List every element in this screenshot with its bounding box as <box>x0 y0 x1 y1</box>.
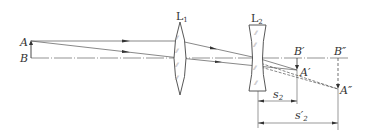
ray-arrow-icon <box>215 61 222 64</box>
object-arrow <box>29 40 33 58</box>
label-object-base: B <box>19 52 28 65</box>
label-s2-prime: s′2 <box>295 109 308 123</box>
label-lens2: L2 <box>251 12 263 26</box>
lens-l1: ⁄⁄ ⁄⁄ ⁄⁄ ⁄⁄ <box>174 22 186 95</box>
label-lens1: L1 <box>176 10 188 24</box>
ray-arrow-icon <box>210 46 217 49</box>
label-final-base: B″ <box>333 45 347 58</box>
label-intermediate-base: B′ <box>293 45 305 58</box>
optical-diagram: A B ⁄⁄ ⁄⁄ ⁄⁄ ⁄⁄ L1 ⁄⁄ ⁄⁄ ⁄⁄ ⁄⁄ L2 <box>0 0 366 140</box>
label-s2: s2 <box>273 88 284 102</box>
ray-arrow-icon <box>122 40 130 43</box>
intermediate-image-arrow <box>295 58 299 104</box>
label-intermediate-top: A′ <box>299 66 311 79</box>
ray-arrow-icon <box>122 50 130 53</box>
label-final-top: A″ <box>339 84 353 97</box>
label-object-top: A <box>19 36 28 49</box>
